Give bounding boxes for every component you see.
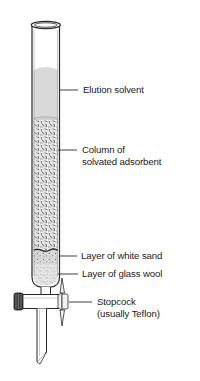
label-glass-wool: Layer of glass wool — [82, 268, 162, 280]
column-neck — [41, 287, 51, 295]
label-column-line2: solvated adsorbent — [82, 156, 161, 168]
solvated-adsorbent-layer — [34, 120, 59, 250]
chromatography-column-diagram: Elution solvent Column of solvated adsor… — [0, 0, 200, 381]
label-elution-solvent: Elution solvent — [83, 84, 144, 96]
outlet-tube — [37, 309, 47, 365]
label-white-sand: Layer of white sand — [81, 250, 162, 262]
elution-solvent-layer — [34, 67, 59, 121]
teflon-key-fin-bottom — [60, 310, 65, 326]
column-illustration — [0, 0, 200, 381]
white-sand-layer — [34, 249, 59, 264]
label-stopcock-line2: (usually Teflon) — [97, 308, 160, 320]
glass-wool-layer — [34, 264, 59, 285]
label-stopcock-line1: Stopcock — [97, 296, 136, 308]
label-column-line1: Column of — [82, 144, 125, 156]
teflon-key-fin-top — [60, 278, 65, 293]
